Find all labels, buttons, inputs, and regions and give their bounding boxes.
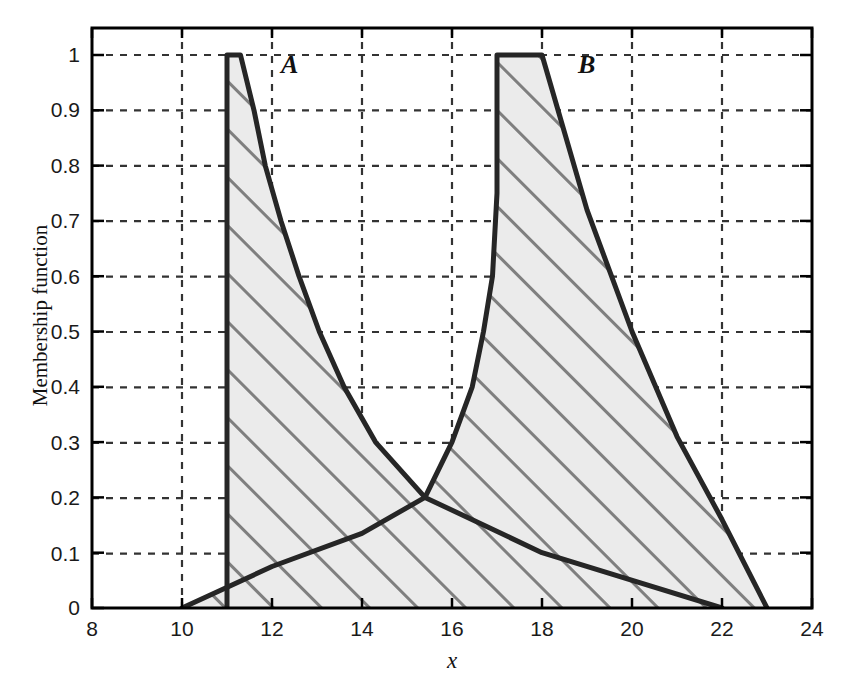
ytick-label-1: 1 [18, 43, 80, 67]
figure-root: 1 0.9 0.8 0.7 0.6 0.5 0.4 0.3 0.2 0.1 0 … [0, 0, 841, 684]
y-axis-label: Membership function [28, 176, 53, 456]
annotation-label-b: B [578, 50, 595, 80]
xtick-label-18: 18 [530, 617, 553, 641]
xtick-label-8: 8 [86, 617, 98, 641]
xtick-label-24: 24 [800, 617, 823, 641]
xtick-label-14: 14 [350, 617, 373, 641]
ytick-label-0.1: 0.1 [18, 542, 80, 566]
xtick-label-22: 22 [710, 617, 733, 641]
xtick-label-16: 16 [440, 617, 463, 641]
ytick-label-0: 0 [18, 596, 80, 620]
xtick-label-10: 10 [170, 617, 193, 641]
annotation-label-a: A [281, 50, 298, 80]
xtick-label-20: 20 [620, 617, 643, 641]
ytick-label-0.8: 0.8 [18, 154, 80, 178]
membership-function-chart [0, 0, 841, 684]
x-axis-label: x [402, 648, 502, 674]
xtick-label-12: 12 [260, 617, 283, 641]
ytick-label-0.2: 0.2 [18, 486, 80, 510]
ytick-label-0.9: 0.9 [18, 98, 80, 122]
